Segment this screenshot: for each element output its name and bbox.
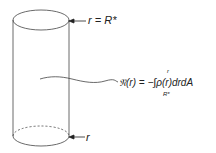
integral-upper-limit: r <box>167 68 169 74</box>
bottom-arrow-head <box>69 135 74 139</box>
top-arrow-head <box>69 19 74 23</box>
formula-lhs: 𝔑(r) = − <box>119 77 153 88</box>
potential-formula: 𝔑(r) = −∫ρ(r)drdA <box>119 76 193 89</box>
cylinder-bottom-back-dashed <box>13 126 69 136</box>
top-boundary-label: r = R* <box>88 14 116 26</box>
wavy-leader-line <box>40 77 118 83</box>
bottom-boundary-label: r <box>86 131 90 143</box>
integral-lower-limit: R* <box>163 91 170 97</box>
cylinder-bottom-front <box>13 136 69 146</box>
formula-integrand: ρ(r)drdA <box>156 77 193 88</box>
cylinder-top-ellipse <box>13 10 69 30</box>
